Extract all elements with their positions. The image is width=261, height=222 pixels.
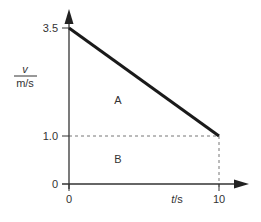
x-tick-label-0: 0 bbox=[66, 193, 72, 205]
region-label-b: B bbox=[114, 153, 121, 165]
x-tick-label-10: 10 bbox=[213, 193, 225, 205]
velocity-time-chart: 3.5 1.0 0 0 10 t/s v m/s A B bbox=[0, 0, 261, 222]
y-axis-arrow-icon bbox=[65, 9, 74, 24]
y-axis-label-numerator: v bbox=[22, 63, 29, 75]
y-axis-label-denominator: m/s bbox=[16, 77, 34, 89]
x-axis-label: t/s bbox=[171, 193, 183, 205]
y-tick-label-3-5: 3.5 bbox=[43, 22, 58, 34]
y-tick-label-0: 0 bbox=[52, 178, 58, 190]
y-tick-label-1-0: 1.0 bbox=[43, 130, 58, 142]
region-label-a: A bbox=[114, 94, 122, 106]
x-axis-arrow-icon bbox=[234, 180, 249, 189]
velocity-line bbox=[69, 28, 219, 136]
